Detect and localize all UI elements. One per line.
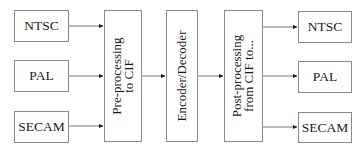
output-ntsc-label: NTSC	[308, 19, 343, 35]
preprocessing-label: Pre-processing to CIF	[111, 37, 135, 114]
output-secam-label: SECAM	[302, 120, 349, 136]
input-ntsc-label: NTSC	[24, 18, 59, 34]
input-secam-box: SECAM	[14, 111, 69, 143]
input-secam-label: SECAM	[18, 119, 65, 135]
postprocessing-label: Post-processing from CIF to...	[232, 35, 256, 117]
input-pal-label: PAL	[29, 68, 53, 84]
postprocessing-box: Post-processing from CIF to...	[224, 10, 263, 142]
encoder-decoder-box: Encoder/Decoder	[166, 10, 198, 142]
output-secam-box: SECAM	[298, 112, 352, 143]
output-pal-box: PAL	[298, 61, 352, 93]
output-pal-label: PAL	[313, 69, 337, 85]
input-ntsc-box: NTSC	[14, 10, 69, 42]
preprocessing-box: Pre-processing to CIF	[104, 10, 142, 142]
encoder-decoder-label: Encoder/Decoder	[176, 31, 188, 122]
input-pal-box: PAL	[14, 60, 69, 92]
output-ntsc-box: NTSC	[298, 11, 352, 43]
